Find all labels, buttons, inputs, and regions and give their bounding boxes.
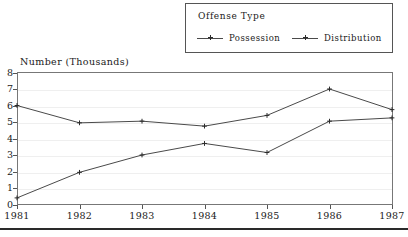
legend-box: Offense Type Possession Distribution <box>185 3 393 53</box>
data-point-marker <box>327 87 332 92</box>
x-tick-label: 1981 <box>0 210 37 221</box>
y-tick-label: 6 <box>0 101 13 111</box>
legend-label-distribution: Distribution <box>324 33 382 43</box>
legend-entry-distribution[interactable]: Distribution <box>292 31 382 45</box>
data-point-marker <box>202 141 207 146</box>
legend-entry-possession[interactable]: Possession <box>197 31 280 45</box>
x-tick-label: 1986 <box>310 210 350 221</box>
y-tick-label: 4 <box>0 134 13 144</box>
x-tick-mark <box>267 205 268 209</box>
y-tick-label: 5 <box>0 117 13 127</box>
data-point-marker <box>265 150 270 155</box>
data-point-marker <box>390 115 395 120</box>
data-point-marker <box>202 124 207 129</box>
data-point-marker <box>327 119 332 124</box>
x-tick-label: 1985 <box>247 210 287 221</box>
possession-series-swatch-icon <box>197 33 223 43</box>
data-point-marker <box>77 170 82 175</box>
x-tick-label: 1982 <box>60 210 100 221</box>
data-point-marker <box>140 153 145 158</box>
series-line <box>17 118 392 198</box>
data-point-marker <box>15 196 20 201</box>
legend-title: Offense Type <box>198 11 265 21</box>
data-point-marker <box>390 107 395 112</box>
x-tick-mark <box>205 205 206 209</box>
distribution-series-swatch-icon <box>292 33 318 43</box>
y-tick-label: 8 <box>0 68 13 78</box>
footer-rule <box>0 228 408 230</box>
x-tick-mark <box>17 205 18 209</box>
data-point-marker <box>140 119 145 124</box>
x-tick-mark <box>330 205 331 209</box>
y-tick-label: 1 <box>0 183 13 193</box>
line-chart-svg <box>17 72 393 205</box>
x-tick-label: 1984 <box>185 210 225 221</box>
x-tick-label: 1983 <box>122 210 162 221</box>
x-tick-label: 1987 <box>372 210 408 221</box>
data-point-marker <box>77 120 82 125</box>
data-point-marker <box>265 113 270 118</box>
y-axis-title: Number (Thousands) <box>20 56 129 67</box>
y-tick-label: 7 <box>0 84 13 94</box>
legend-label-possession: Possession <box>229 33 280 43</box>
x-tick-mark <box>392 205 393 209</box>
y-tick-label: 2 <box>0 167 13 177</box>
y-tick-label: 3 <box>0 150 13 160</box>
y-tick-label: 0 <box>0 200 13 210</box>
series-layer <box>17 72 393 205</box>
x-tick-mark <box>142 205 143 209</box>
x-tick-mark <box>80 205 81 209</box>
series-possession <box>15 87 395 129</box>
data-point-marker <box>15 103 20 108</box>
